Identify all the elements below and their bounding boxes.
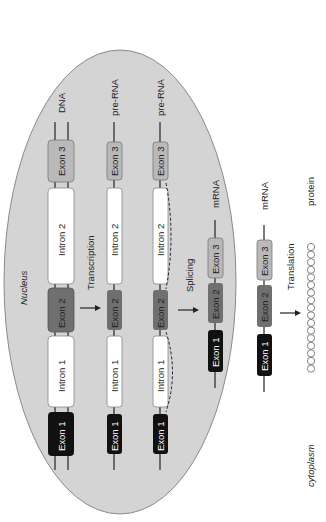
svg-text:Exon 1: Exon 1	[210, 337, 221, 367]
svg-text:Exon 2: Exon 2	[109, 298, 120, 328]
svg-text:Intron 2: Intron 2	[56, 224, 67, 256]
nucleus-label: Nucleus	[18, 270, 29, 305]
dna-row: Exon 3 Intron 2 Exon 2 Intron 1 Exon 1 D…	[48, 92, 74, 470]
amino-acid-residue	[307, 243, 314, 250]
mrna-label: mRNA	[210, 179, 221, 208]
amino-acid-residue	[307, 357, 314, 364]
svg-text:Exon 1: Exon 1	[109, 421, 120, 451]
svg-text:Intron 2: Intron 2	[109, 224, 120, 256]
svg-text:Exon 3: Exon 3	[109, 146, 120, 176]
svg-text:Exon 2: Exon 2	[155, 298, 166, 328]
amino-acid-residue	[307, 289, 314, 296]
amino-acid-residue	[307, 350, 314, 357]
amino-acid-residue	[307, 274, 314, 281]
transcription-label: Transcription	[85, 235, 96, 290]
svg-text:Intron 1: Intron 1	[109, 360, 120, 392]
amino-acid-residue	[307, 266, 314, 273]
amino-acid-residue	[307, 327, 314, 334]
amino-acid-residue	[307, 335, 314, 342]
svg-text:Intron 2: Intron 2	[155, 224, 166, 256]
amino-acid-residue	[307, 297, 314, 304]
svg-text:Exon 1: Exon 1	[259, 341, 270, 371]
amino-acid-residue	[307, 365, 314, 372]
svg-text:Exon 2: Exon 2	[56, 298, 67, 328]
translation-label: Translation	[285, 243, 296, 290]
svg-text:Exon 2: Exon 2	[210, 289, 221, 319]
amino-acid-residue	[307, 342, 314, 349]
mrna-label-cytoplasm: mRNA	[259, 181, 270, 210]
svg-text:Exon 3: Exon 3	[259, 246, 270, 276]
cytoplasm-label: cytoplasm	[305, 444, 316, 487]
svg-text:Exon 1: Exon 1	[155, 421, 166, 451]
gene-expression-diagram: Nucleus Exon 3 Intron 2 Exon 2 Intron 1 …	[0, 0, 326, 522]
mrna-cytoplasm-row: Exon 3 Exon 2 Exon 1 mRNA	[257, 181, 272, 392]
splicing-label: Splicing	[184, 259, 195, 292]
svg-text:Exon 3: Exon 3	[210, 244, 221, 274]
protein-chain	[307, 243, 314, 372]
amino-acid-residue	[307, 304, 314, 311]
amino-acid-residue	[307, 281, 314, 288]
pre-rna-label: pre-RNA	[109, 78, 120, 116]
amino-acid-residue	[307, 259, 314, 266]
svg-text:Exon 2: Exon 2	[259, 292, 270, 322]
amino-acid-residue	[307, 251, 314, 258]
amino-acid-residue	[307, 319, 314, 326]
protein-label: protein	[305, 177, 316, 206]
translation-arrow	[280, 310, 301, 316]
svg-text:Intron 1: Intron 1	[155, 360, 166, 392]
svg-text:Exon 3: Exon 3	[155, 146, 166, 176]
dna-label: DNA	[56, 92, 67, 113]
svg-text:Intron 1: Intron 1	[56, 360, 67, 392]
pre-rna-label-2: pre-RNA	[155, 78, 166, 116]
svg-text:Exon 3: Exon 3	[56, 146, 67, 176]
svg-text:Exon 1: Exon 1	[56, 421, 67, 451]
amino-acid-residue	[307, 312, 314, 319]
